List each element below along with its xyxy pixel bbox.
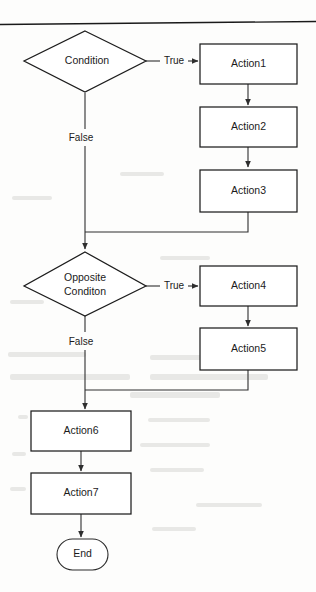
node-action1[interactable]: Action1 bbox=[200, 44, 297, 84]
node-action5[interactable]: Action5 bbox=[200, 328, 297, 370]
node-opposite-conditon-label-line2: Conditon bbox=[64, 285, 106, 297]
node-action4[interactable]: Action4 bbox=[200, 266, 297, 306]
edge-label-true-1: True bbox=[164, 55, 185, 66]
node-action6[interactable]: Action6 bbox=[31, 411, 131, 451]
edge-label-false-2: False bbox=[69, 336, 94, 347]
node-action7-label: Action7 bbox=[63, 486, 98, 498]
node-end[interactable]: End bbox=[57, 539, 108, 570]
node-action3-label: Action3 bbox=[231, 184, 266, 196]
node-opposite-conditon-label-line1: Opposite bbox=[64, 271, 106, 283]
flowchart-canvas: Condition Opposite Conditon Action1 Acti… bbox=[0, 0, 316, 592]
flowchart-diagram: Condition Opposite Conditon Action1 Acti… bbox=[0, 0, 316, 592]
node-condition[interactable]: Condition bbox=[24, 31, 146, 92]
node-action3[interactable]: Action3 bbox=[200, 170, 297, 212]
edge-action3-merge bbox=[85, 212, 248, 232]
edge-label-true-2: True bbox=[164, 280, 185, 291]
node-action5-label: Action5 bbox=[231, 342, 266, 354]
edge-label-false-1: False bbox=[69, 132, 94, 143]
node-action1-label: Action1 bbox=[231, 57, 266, 69]
node-action6-label: Action6 bbox=[63, 424, 98, 436]
node-opposite-conditon[interactable]: Opposite Conditon bbox=[24, 252, 146, 316]
node-action2[interactable]: Action2 bbox=[200, 107, 297, 147]
node-condition-label: Condition bbox=[65, 54, 110, 66]
node-action4-label: Action4 bbox=[231, 279, 266, 291]
node-action7[interactable]: Action7 bbox=[31, 473, 131, 514]
top-rule bbox=[0, 22, 316, 25]
node-end-label: End bbox=[73, 547, 92, 559]
node-action2-label: Action2 bbox=[231, 120, 266, 132]
